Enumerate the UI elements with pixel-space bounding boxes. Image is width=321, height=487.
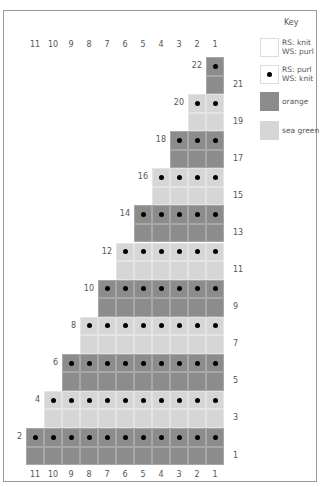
purl-dot-icon bbox=[213, 435, 218, 440]
purl-dot-icon bbox=[123, 323, 128, 328]
chart-cell bbox=[116, 354, 134, 373]
column-label-top: 10 bbox=[44, 40, 62, 49]
row-label: 20 bbox=[168, 98, 184, 107]
chart-cell bbox=[188, 131, 206, 150]
chart-cell bbox=[206, 409, 224, 428]
purl-dot-icon bbox=[159, 435, 164, 440]
purl-dot-icon bbox=[141, 398, 146, 403]
purl-dot-icon bbox=[177, 175, 182, 180]
purl-dot-icon bbox=[213, 361, 218, 366]
chart-cell bbox=[62, 409, 80, 428]
chart-cell bbox=[98, 428, 116, 447]
row-label: 17 bbox=[233, 154, 249, 163]
key-label-knit: RS: knit WS: purl bbox=[282, 38, 314, 56]
chart-cell bbox=[188, 298, 206, 317]
chart-cell bbox=[188, 335, 206, 354]
chart-cell bbox=[152, 335, 170, 354]
purl-dot-icon bbox=[141, 286, 146, 291]
row-label: 7 bbox=[233, 339, 249, 348]
purl-dot-icon bbox=[195, 175, 200, 180]
purl-dot-icon bbox=[123, 249, 128, 254]
chart-cell bbox=[134, 298, 152, 317]
chart-cell bbox=[206, 372, 224, 391]
row-label: 18 bbox=[150, 135, 166, 144]
purl-dot-icon bbox=[141, 249, 146, 254]
chart-cell bbox=[44, 447, 62, 466]
row-label: 15 bbox=[233, 191, 249, 200]
chart-cell bbox=[80, 372, 98, 391]
chart-cell bbox=[188, 317, 206, 336]
purl-dot-icon bbox=[177, 435, 182, 440]
row-label: 10 bbox=[78, 284, 94, 293]
chart-cell bbox=[206, 113, 224, 132]
chart-cell bbox=[188, 261, 206, 280]
purl-dot-icon bbox=[177, 323, 182, 328]
chart-cell bbox=[62, 447, 80, 466]
purl-dot-icon bbox=[141, 361, 146, 366]
purl-dot-icon bbox=[87, 361, 92, 366]
chart-cell bbox=[206, 57, 224, 76]
key-label-purl: RS: purl WS: knit bbox=[282, 65, 313, 83]
purl-dot-icon bbox=[195, 249, 200, 254]
chart-cell bbox=[134, 391, 152, 410]
chart-cell bbox=[134, 428, 152, 447]
chart-cell bbox=[116, 428, 134, 447]
chart-cell bbox=[116, 447, 134, 466]
chart-cell bbox=[116, 372, 134, 391]
chart-cell bbox=[152, 409, 170, 428]
key-label-orange: orange bbox=[282, 97, 308, 106]
column-label-bottom: 6 bbox=[116, 470, 134, 479]
chart-cell bbox=[188, 205, 206, 224]
column-label-top: 3 bbox=[170, 40, 188, 49]
chart-cell bbox=[116, 335, 134, 354]
chart-cell bbox=[170, 205, 188, 224]
chart-cell bbox=[170, 409, 188, 428]
purl-dot-icon bbox=[123, 361, 128, 366]
chart-cell bbox=[170, 372, 188, 391]
chart-cell bbox=[44, 391, 62, 410]
chart-cell bbox=[98, 447, 116, 466]
chart-cell bbox=[44, 428, 62, 447]
chart-cell bbox=[170, 391, 188, 410]
purl-dot-icon bbox=[87, 323, 92, 328]
chart-cell bbox=[152, 205, 170, 224]
purl-dot-icon bbox=[105, 323, 110, 328]
chart-cell bbox=[134, 243, 152, 262]
column-label-top: 4 bbox=[152, 40, 170, 49]
orange-swatch-icon bbox=[260, 92, 279, 111]
row-label: 16 bbox=[132, 172, 148, 181]
chart-cell bbox=[152, 354, 170, 373]
cropped-header-strip bbox=[0, 0, 321, 10]
purl-dot-icon bbox=[159, 212, 164, 217]
chart-cell bbox=[152, 280, 170, 299]
purl-dot-icon bbox=[213, 138, 218, 143]
chart-cell bbox=[62, 428, 80, 447]
chart-cell bbox=[134, 224, 152, 243]
chart-cell bbox=[188, 224, 206, 243]
chart-cell bbox=[206, 317, 224, 336]
purl-dot-icon bbox=[195, 361, 200, 366]
chart-cell bbox=[26, 428, 44, 447]
chart-cell bbox=[206, 298, 224, 317]
chart-cell bbox=[170, 187, 188, 206]
chart-cell bbox=[188, 391, 206, 410]
purl-dot-icon bbox=[177, 286, 182, 291]
purl-swatch-icon bbox=[260, 65, 279, 84]
purl-dot-icon bbox=[177, 398, 182, 403]
sea-green-swatch-icon bbox=[260, 121, 279, 140]
purl-dot-icon bbox=[123, 398, 128, 403]
purl-dot-icon bbox=[213, 398, 218, 403]
row-label: 13 bbox=[233, 228, 249, 237]
column-label-bottom: 3 bbox=[170, 470, 188, 479]
chart-cell bbox=[206, 131, 224, 150]
purl-dot-icon bbox=[159, 361, 164, 366]
purl-dot-icon bbox=[177, 138, 182, 143]
chart-cell bbox=[62, 372, 80, 391]
chart-cell bbox=[170, 261, 188, 280]
chart-cell bbox=[80, 317, 98, 336]
chart-cell bbox=[152, 317, 170, 336]
chart-cell bbox=[134, 317, 152, 336]
column-label-top: 7 bbox=[98, 40, 116, 49]
key-purl-ws: WS: knit bbox=[282, 74, 313, 83]
chart-cell bbox=[170, 150, 188, 169]
